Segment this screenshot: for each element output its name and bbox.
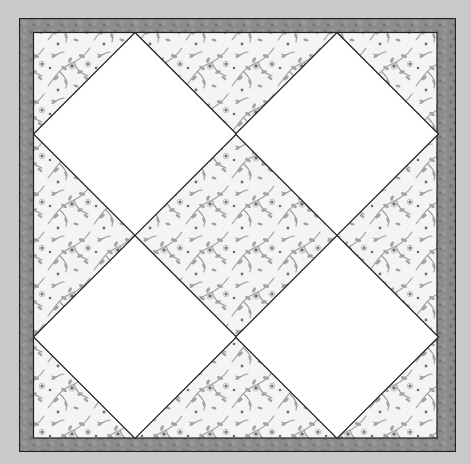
quilt-block bbox=[19, 18, 456, 452]
quilt-block-drawing bbox=[19, 18, 456, 452]
